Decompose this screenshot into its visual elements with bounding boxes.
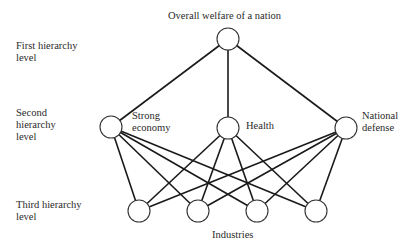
- edge-second-1-to-third-1: [198, 128, 228, 211]
- node-second-0: [100, 116, 122, 138]
- node-industry-3: [305, 200, 327, 222]
- industries-caption: Industries: [212, 229, 253, 241]
- edge-second-2-to-third-3: [316, 128, 346, 211]
- node-label-health: Health: [246, 120, 274, 132]
- edge-second-2-to-third-2: [257, 128, 346, 211]
- edge-second-2-to-third-1: [198, 128, 346, 211]
- node-industry-0: [128, 200, 150, 222]
- node-top: [217, 28, 239, 50]
- node-industry-1: [187, 200, 209, 222]
- node-second-2: [335, 117, 357, 139]
- node-label-strong-economy: Strong economy: [132, 110, 171, 134]
- node-second-1: [217, 117, 239, 139]
- edge-top-to-second-2: [228, 39, 346, 128]
- node-industry-2: [246, 200, 268, 222]
- hierarchy-graph: [0, 0, 414, 248]
- node-label-national-defense: National defense: [362, 110, 398, 134]
- edge-second-2-to-third-0: [139, 128, 346, 211]
